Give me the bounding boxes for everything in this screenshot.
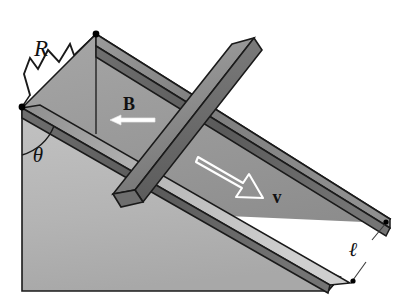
physics-figure-container: R θ B v ℓ [0,0,415,307]
magnetic-field-label: B [123,94,135,114]
node-dot-upper [93,31,100,38]
node-dot-lower [19,104,26,111]
rail-separation-label: ℓ [349,238,358,260]
velocity-label: v [273,187,282,207]
incline-angle-label: θ [33,143,43,167]
dimension-endpoint-upper [383,219,388,224]
inclined-plane-circuit-diagram: R θ B v ℓ [0,0,415,307]
resistor-label: R [33,36,48,61]
dimension-endpoint-lower [350,278,355,283]
